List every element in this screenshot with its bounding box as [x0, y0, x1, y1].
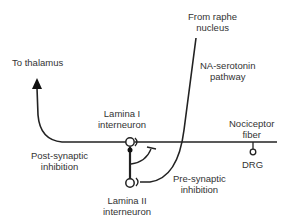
label-nociceptor: Nociceptor fiber	[229, 118, 274, 140]
lamina-ii-synapse-icon	[136, 178, 138, 186]
label-nociceptor-line1: Nociceptor	[229, 118, 274, 129]
lamina-ii-neuron-icon	[126, 179, 134, 187]
inhibitory-terminal-icon	[147, 147, 156, 149]
label-lamina-ii: Lamina II interneuron	[103, 195, 151, 217]
label-nociceptor-line2: fiber	[229, 129, 274, 140]
thalamus-arrowhead-icon	[32, 78, 42, 89]
raphe-pathway	[140, 38, 196, 182]
drg-icon	[250, 149, 256, 155]
label-pre-synaptic-line1: Pre-synaptic	[173, 173, 226, 184]
label-from-raphe-line1: From raphe	[188, 11, 237, 22]
pain-pathway-diagram	[0, 0, 295, 224]
label-na-serotonin: NA-serotonin pathway	[200, 60, 255, 82]
label-from-raphe-line2: nucleus	[188, 22, 237, 33]
label-lamina-i-line1: Lamina I	[98, 108, 146, 119]
label-post-synaptic: Post-synaptic inhibition	[31, 150, 88, 172]
label-na-serotonin-line2: pathway	[200, 71, 255, 82]
label-post-synaptic-line1: Post-synaptic	[31, 150, 88, 161]
label-lamina-i-line2: interneuron	[98, 119, 146, 130]
label-pre-synaptic: Pre-synaptic inhibition	[173, 173, 226, 195]
label-to-thalamus: To thalamus	[12, 57, 63, 68]
label-pre-synaptic-line2: inhibition	[173, 184, 226, 195]
label-lamina-ii-line1: Lamina II	[103, 195, 151, 206]
label-from-raphe: From raphe nucleus	[188, 11, 237, 33]
label-lamina-ii-line2: interneuron	[103, 206, 151, 217]
pre-synaptic-branch	[131, 149, 151, 164]
label-drg: DRG	[242, 159, 263, 170]
post-synaptic-terminal-icon	[128, 148, 133, 153]
lamina-i-neuron-icon	[126, 138, 134, 146]
label-post-synaptic-line2: inhibition	[31, 161, 88, 172]
label-na-serotonin-line1: NA-serotonin	[200, 60, 255, 71]
label-lamina-i: Lamina I interneuron	[98, 108, 146, 130]
